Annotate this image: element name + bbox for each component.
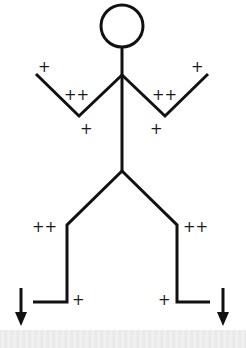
left-knee-plus: ++ <box>32 220 57 235</box>
right-elbow-lower-plus: + <box>150 122 163 137</box>
stick-figure <box>0 0 246 348</box>
right-knee-plus: ++ <box>183 220 208 235</box>
bottom-scan-strip <box>0 330 246 348</box>
head <box>101 5 143 47</box>
right-ankle-plus: + <box>158 293 171 308</box>
left-elbow-lower-plus: + <box>80 122 93 137</box>
left-arrow-icon <box>15 288 27 326</box>
right-elbow-upper-plus: ++ <box>152 88 177 103</box>
right-arrow-icon <box>217 288 229 326</box>
right-hand-plus: + <box>191 60 204 75</box>
right-leg <box>122 171 210 302</box>
left-elbow-upper-plus: ++ <box>64 88 89 103</box>
left-ankle-plus: + <box>72 293 85 308</box>
left-leg <box>33 171 122 302</box>
left-hand-plus: + <box>38 60 51 75</box>
